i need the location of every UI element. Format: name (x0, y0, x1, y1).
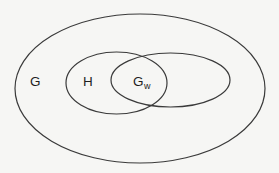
ellipse-h (66, 52, 167, 114)
venn-diagram: G H Gw (0, 0, 279, 173)
label-h-text: H (83, 74, 93, 89)
label-gw: Gw (133, 75, 151, 91)
label-h: H (83, 75, 93, 89)
label-gw-text: G (133, 74, 144, 89)
label-gw-subscript: w (144, 81, 151, 91)
label-g: G (30, 75, 41, 89)
label-g-text: G (30, 74, 41, 89)
ellipse-gw (111, 53, 230, 107)
